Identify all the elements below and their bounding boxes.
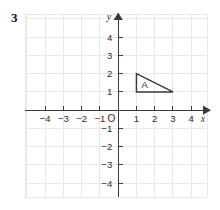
worksheet-figure: 3 −4−3−2−112344321−1−2−3−4 O x y A: [0, 0, 220, 210]
y-tick-label: 2: [107, 68, 112, 79]
x-axis-label: x: [200, 113, 206, 124]
y-tick-label: −2: [101, 141, 112, 152]
axes: [25, 20, 203, 197]
y-tick-label: −3: [101, 159, 112, 170]
x-tick-label: 1: [134, 113, 139, 124]
axis-arrowheads: [114, 13, 211, 115]
x-tick-label: −4: [40, 113, 51, 124]
x-tick-label: 4: [189, 113, 194, 124]
grid-lines: [25, 14, 207, 197]
x-tick-label: 2: [152, 113, 157, 124]
y-tick-label: −1: [101, 123, 112, 134]
coordinate-grid-graph: −4−3−2−112344321−1−2−3−4 O x y A: [0, 0, 220, 210]
x-tick-label: −3: [58, 113, 69, 124]
origin-label: O: [108, 113, 116, 124]
shape-label-a: A: [141, 79, 148, 90]
y-tick-label: −4: [101, 178, 112, 189]
y-axis-label: y: [106, 11, 112, 22]
x-tick-label: 3: [170, 113, 175, 124]
y-tick-label: 1: [107, 86, 112, 97]
y-tick-label: 4: [107, 32, 112, 43]
x-tick-label: −2: [76, 113, 87, 124]
y-tick-label: 3: [107, 50, 112, 61]
